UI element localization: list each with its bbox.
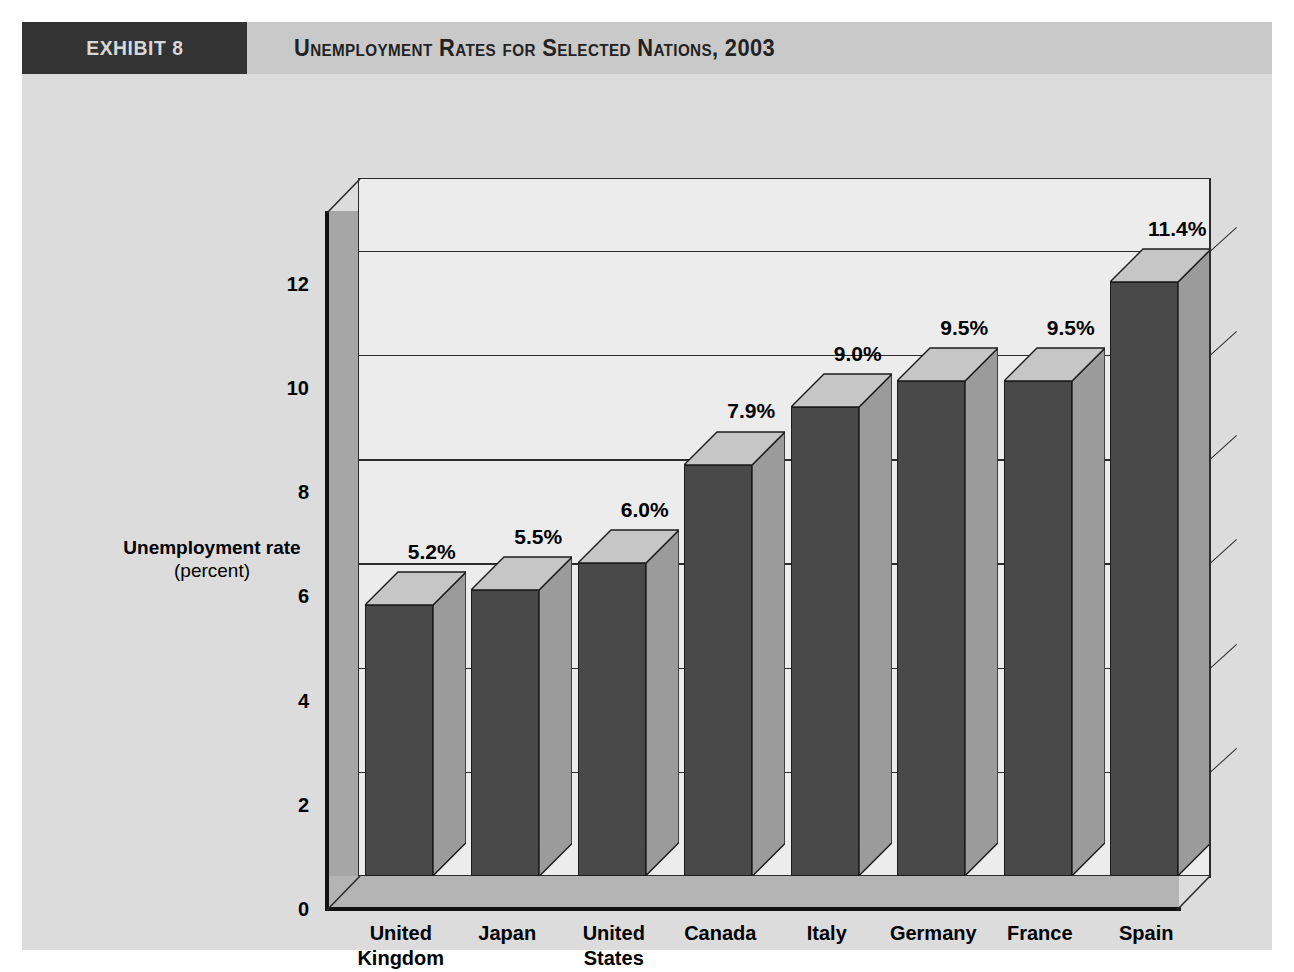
chart-body: Unemployment rate (percent) Country 0246… xyxy=(22,74,1272,950)
category-label-line: Canada xyxy=(684,922,756,944)
x-axis-category-label: UnitedStates xyxy=(560,921,668,971)
exhibit-header-band: EXHIBIT 8 Unemployment Rates for Selecte… xyxy=(22,22,1272,74)
bar-value-label: 9.5% xyxy=(912,316,1016,340)
y-axis-line xyxy=(325,211,329,911)
exhibit-title: Unemployment Rates for Selected Nations,… xyxy=(294,22,775,74)
exhibit-page: EXHIBIT 8 Unemployment Rates for Selecte… xyxy=(0,0,1294,972)
plot-right-back-edge xyxy=(1209,178,1211,878)
x-axis-category-label: Italy xyxy=(773,921,881,946)
bar xyxy=(897,381,965,876)
y-axis-tick-label: 12 xyxy=(259,274,309,294)
exhibit-panel: EXHIBIT 8 Unemployment Rates for Selecte… xyxy=(22,22,1272,950)
bar-value-label: 5.2% xyxy=(380,540,484,564)
exhibit-number-label: EXHIBIT 8 xyxy=(86,36,183,60)
x-axis-category-label: Spain xyxy=(1092,921,1200,946)
y-axis-unit-text: (percent) xyxy=(122,559,302,582)
gridline-depth-extension xyxy=(1210,748,1238,773)
category-label-line: United xyxy=(370,922,432,944)
bar-value-label: 11.4% xyxy=(1125,217,1229,241)
category-label-line: United xyxy=(583,922,645,944)
x-axis-category-label: France xyxy=(986,921,1094,946)
y-axis-tick-label: 8 xyxy=(259,482,309,502)
bar-front-face xyxy=(897,381,965,876)
bar xyxy=(1004,381,1072,876)
chart-plot-area: UnitedKingdomJapanUnitedStatesCanadaItal… xyxy=(325,178,1215,918)
x-axis-category-label: Germany xyxy=(879,921,987,946)
y-axis-title: Unemployment rate (percent) xyxy=(122,536,302,582)
bar xyxy=(578,563,646,876)
bar-value-label: 7.9% xyxy=(699,399,803,423)
bar-front-face xyxy=(365,605,433,876)
exhibit-number-tag: EXHIBIT 8 xyxy=(22,22,247,74)
y-axis-tick-label: 2 xyxy=(259,795,309,815)
x-axis-category-label: Canada xyxy=(666,921,774,946)
category-label-line: Spain xyxy=(1119,922,1173,944)
category-label-line: Kingdom xyxy=(357,947,444,969)
plot-left-wall xyxy=(327,211,360,909)
bar-value-label: 5.5% xyxy=(486,525,590,549)
bar-front-face xyxy=(1004,381,1072,876)
bar-front-face xyxy=(578,563,646,876)
category-label-line: France xyxy=(1007,922,1073,944)
bar-front-face xyxy=(471,590,539,876)
bar-front-face xyxy=(1110,282,1178,876)
bar xyxy=(365,605,433,876)
category-label-line: Germany xyxy=(890,922,977,944)
bar-value-label: 9.0% xyxy=(806,342,910,366)
x-axis-line xyxy=(325,907,1181,911)
bar xyxy=(684,465,752,877)
category-label-line: Italy xyxy=(807,922,847,944)
bar-front-face xyxy=(791,407,859,876)
y-axis-tick-label: 6 xyxy=(259,586,309,606)
depth-edge-top-left-icon xyxy=(325,178,361,214)
gridline-depth-extension xyxy=(1210,540,1238,565)
bar xyxy=(791,407,859,876)
bar xyxy=(471,590,539,876)
y-axis-tick-label: 10 xyxy=(259,378,309,398)
gridline-depth-extension xyxy=(1210,331,1238,356)
bar-value-label: 9.5% xyxy=(1019,316,1123,340)
gridline-depth-extension xyxy=(1210,435,1238,460)
category-label-line: States xyxy=(584,947,644,969)
bar xyxy=(1110,282,1178,876)
gridline-depth-extension xyxy=(1210,644,1238,669)
y-axis-title-text: Unemployment rate xyxy=(123,537,300,558)
bar-front-face xyxy=(684,465,752,877)
bar-value-label: 6.0% xyxy=(593,498,697,522)
x-axis-category-label: UnitedKingdom xyxy=(347,921,455,971)
category-label-line: Japan xyxy=(478,922,536,944)
y-axis-tick-label: 4 xyxy=(259,691,309,711)
x-axis-category-label: Japan xyxy=(453,921,561,946)
y-axis-tick-label: 0 xyxy=(259,899,309,919)
